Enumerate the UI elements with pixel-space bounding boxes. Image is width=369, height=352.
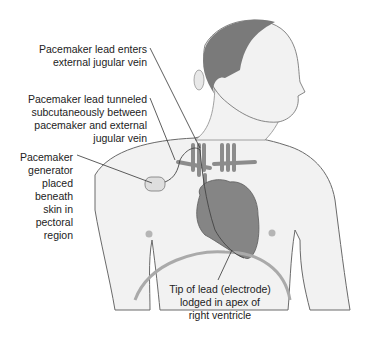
nipple-left: [146, 231, 153, 238]
label-line: skin in: [10, 203, 73, 216]
label-line: external jugular vein: [35, 56, 147, 69]
label-line: beneath: [10, 190, 73, 203]
label-line: generator: [10, 164, 73, 177]
label-line: Tip of lead (electrode): [155, 283, 285, 296]
label-line: Pacemaker lead enters: [35, 43, 147, 56]
label-tip: Tip of lead (electrode) lodged in apex o…: [155, 283, 285, 322]
nipple-right: [269, 230, 276, 237]
label-lead-tunneled: Pacemaker lead tunneled subcutaneously b…: [15, 93, 147, 145]
pacemaker-generator: [145, 177, 165, 191]
ear: [194, 70, 204, 90]
label-line: jugular vein: [15, 132, 147, 145]
label-line: subcutaneously between: [15, 106, 147, 119]
label-line: region: [10, 229, 73, 242]
label-line: Pacemaker: [10, 151, 73, 164]
label-line: Pacemaker lead tunneled: [15, 93, 147, 106]
label-line: pacemaker and external: [15, 119, 147, 132]
label-line: placed: [10, 177, 73, 190]
label-line: pectoral: [10, 216, 73, 229]
label-line: lodged in apex of: [155, 296, 285, 309]
label-lead-enters: Pacemaker lead enters external jugular v…: [35, 43, 147, 69]
label-line: right ventricle: [155, 309, 285, 322]
label-generator: Pacemaker generator placed beneath skin …: [10, 151, 73, 242]
